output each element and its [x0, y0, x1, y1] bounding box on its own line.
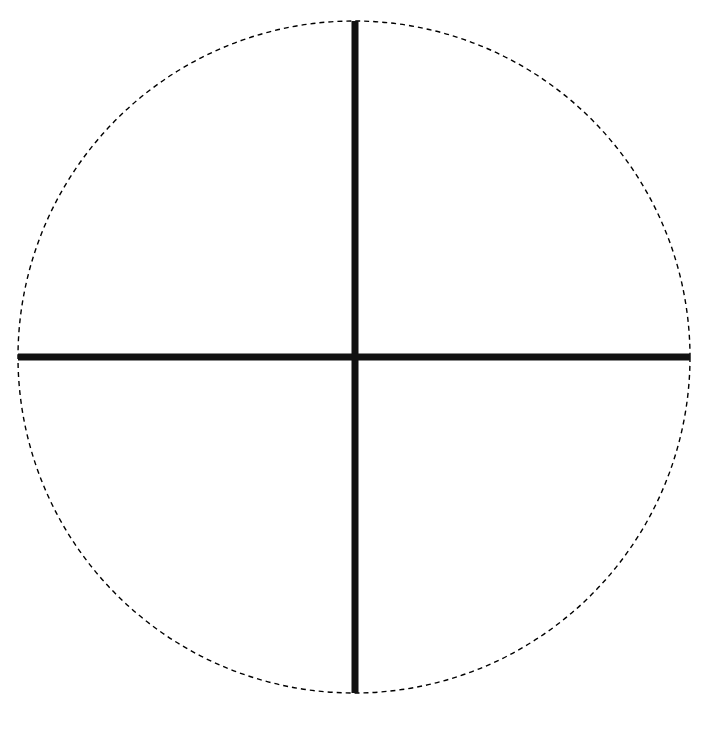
circle-diagram [0, 0, 710, 732]
